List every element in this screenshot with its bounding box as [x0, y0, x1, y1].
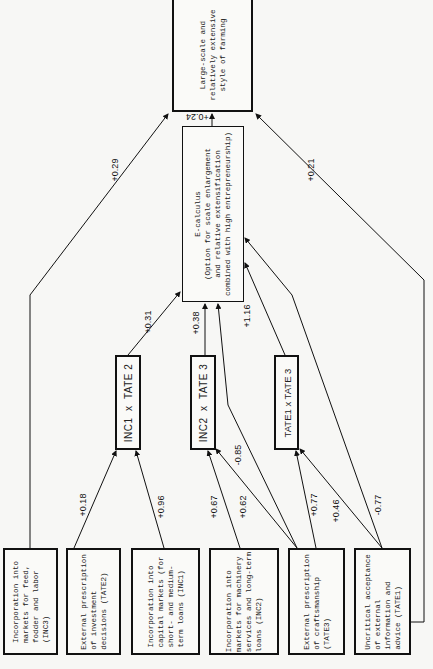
edge-label-inc1-inc1tate2: +0.96	[156, 496, 166, 519]
node-tate3-text: External prescription of craftsmanship (…	[302, 554, 332, 650]
edge-label-tate3-inc2tate3: +0.62	[238, 496, 248, 519]
node-tate1-text: Uncritical acceptance of external inform…	[363, 554, 403, 650]
node-inc2-tate3: INC2 x TATE 3	[190, 355, 216, 450]
edge-label-inc3-outcome: +0.29	[110, 159, 120, 182]
node-tate1-tate3-text: TATE1 x TATE 3	[281, 368, 292, 437]
edge-label-tate1-ecalc: -0.77	[373, 495, 383, 516]
node-inc1: Incorporation into capital markets (for …	[131, 548, 200, 655]
edge-label-ecalc-outcome: +0.24	[186, 112, 209, 122]
node-tate2-text: External prescription of investment deci…	[79, 554, 109, 650]
node-inc1-tate2: INC1 x TATE 2	[115, 355, 141, 450]
node-inc3: Incorporation into markets for feed, fod…	[3, 548, 58, 655]
edge-label-tate2-inc1tate2: +0.18	[78, 494, 88, 517]
edge-inc1tate2-ecalc	[128, 292, 180, 355]
node-ecalculus: E-calculus (Option for scale enlargement…	[182, 126, 244, 302]
node-tate2: External prescription of investment deci…	[66, 548, 121, 655]
edge-label-tate1-tate1tate3: +0.46	[331, 500, 341, 523]
node-inc2-tate3-text: INC2 x TATE 3	[198, 363, 209, 442]
edge-label-tate3-ecalc: -0.85	[233, 445, 243, 466]
edge-label-inc2tate3-ecalc: +0.38	[191, 312, 201, 335]
node-inc1-text: Incorporation into capital markets (for …	[146, 556, 186, 647]
node-ecalculus-text: E-calculus (Option for scale enlargement…	[193, 132, 233, 296]
node-inc2: Incorporation into markets for machinery…	[209, 548, 279, 655]
node-outcome-text: Large-scale and relatively extensive sty…	[198, 9, 228, 100]
node-inc3-text: Incorporation into markets for feed, fod…	[11, 560, 51, 642]
node-inc1-tate2-text: INC1 x TATE 2	[123, 363, 134, 442]
edge-label-inc1tate2-ecalc: +0.31	[143, 311, 153, 334]
node-outcome: Large-scale and relatively extensive sty…	[172, 0, 253, 112]
edge-label-tate1tate3-ecalc: +1.16	[242, 305, 252, 328]
edge-label-inc2-inc2tate3: +0.67	[209, 496, 219, 519]
node-inc2-text: Incorporation into markets for machinery…	[224, 551, 264, 651]
edge-label-tate3-tate1tate3: +0.77	[309, 494, 319, 517]
node-tate3: External prescription of craftsmanship (…	[288, 548, 345, 655]
node-tate1-tate3: TATE1 x TATE 3	[274, 355, 299, 450]
node-tate1: Uncritical acceptance of external inform…	[354, 548, 411, 655]
edge-label-tate1-outcome: +0.21	[306, 159, 316, 182]
